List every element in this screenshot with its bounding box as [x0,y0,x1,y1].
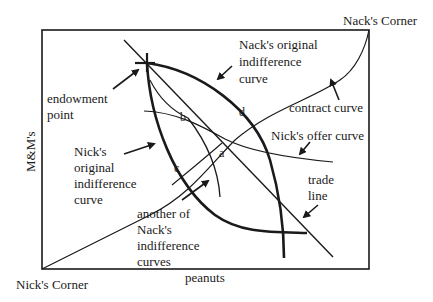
nick-original-arrow [124,144,154,154]
another-nack-label-3: indifference [137,238,200,253]
nick-secondary-curve [172,143,222,185]
nicks-corner-label: Nick's Corner [16,277,89,292]
another-nack-label-2: Nack's [137,222,172,237]
endowment-label-2: point [47,107,74,122]
point-d-label: d [239,105,245,119]
nack-original-arrow [218,66,232,79]
diagram-canvas: b a c d Nack's Corner Nick's Corner pean… [0,0,433,302]
nick-original-label-2: original [74,160,115,175]
trade-line-label-1: trade [308,172,334,187]
point-a-label: a [219,146,225,160]
nick-original-label-4: curve [74,192,103,207]
another-nack-label-4: curves [137,254,171,269]
contract-curve-label: contract curve [289,100,363,115]
another-nack-label-1: another of [137,206,191,221]
trade-line-label-2: line [308,188,328,203]
nick-original-label-3: indifference [74,176,137,191]
nack-original-label-2: indifference [239,54,302,69]
nacks-corner-label: Nack's Corner [343,13,418,28]
nick-offer-arrow [300,142,310,154]
nick-original-label-1: Nick's [74,144,107,159]
trade-line-arrow [304,205,318,217]
nack-original-label-3: curve [239,71,268,86]
nick-offer-curve-label: Nick's offer curve [271,128,364,143]
point-b-label: b [180,110,186,124]
y-axis-label: M&M's [23,131,38,172]
endowment-label-1: endowment [47,91,108,106]
nack-original-label-1: Nack's original [239,37,318,52]
x-axis-label: peanuts [185,270,225,285]
endowment-arrow [113,70,138,89]
edgeworth-box-diagram: b a c d Nack's Corner Nick's Corner pean… [0,0,433,302]
point-c-label: c [174,161,179,175]
